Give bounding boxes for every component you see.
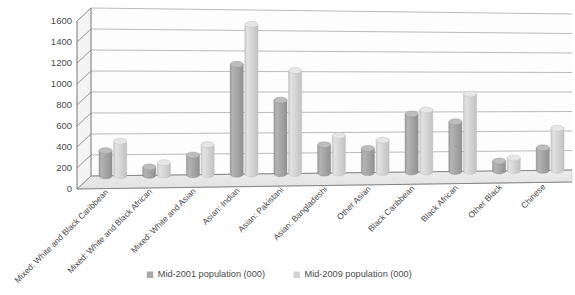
bar-body [245, 24, 258, 177]
chart-container: 02004006008001000120014001600 Mixed: Whi… [0, 0, 575, 295]
bar-cylinder [420, 107, 433, 175]
bar-top-cap [274, 97, 287, 103]
bar-body [361, 148, 374, 175]
bar-body [420, 110, 433, 175]
bar-top-cap [318, 142, 331, 148]
bar-body [114, 141, 127, 178]
bar-top-cap [507, 155, 520, 161]
legend-swatch [294, 272, 301, 279]
bar-cylinder [201, 142, 214, 178]
bar-cylinder [332, 132, 345, 175]
bar-cylinder [114, 138, 127, 178]
bar-cylinder [449, 119, 462, 175]
bar-cylinder [245, 21, 258, 177]
bar-cylinder [376, 137, 389, 175]
bar-cylinder [536, 145, 549, 174]
bar-top-cap [536, 145, 549, 151]
bar-body [186, 155, 199, 178]
bar-body [274, 100, 287, 176]
bar-top-cap [157, 160, 170, 166]
y-axis-tick-label: 200 [56, 162, 72, 173]
bar-body [536, 148, 549, 174]
bar-top-cap [463, 91, 476, 97]
bar-cylinder [507, 155, 520, 174]
bar-body [463, 94, 476, 174]
bar-cylinder [230, 61, 243, 177]
bar-cylinder [463, 91, 476, 174]
x-axis-categories: Mixed: White and Black CaribbeanMixed: W… [12, 181, 547, 285]
bar-body [332, 135, 345, 175]
bar-body [99, 151, 112, 179]
chart-legend: Mid-2001 population (000)Mid-2009 popula… [147, 269, 412, 279]
legend-swatch [147, 272, 154, 279]
y-axis-tick-label: 1200 [51, 57, 72, 68]
legend-label: Mid-2009 population (000) [305, 269, 412, 279]
bar-top-cap [551, 125, 564, 131]
y-axis-tick-label: 1000 [51, 78, 72, 89]
x-axis-category-label: Mixed: White and Black Caribbean [12, 187, 110, 285]
x-axis-category-label: Asian: Pakistani [236, 185, 285, 234]
bar-top-cap [361, 145, 374, 151]
y-axis-tick-label: 400 [56, 141, 72, 152]
bar-body [376, 140, 389, 175]
y-axis-tick-label: 800 [56, 99, 72, 110]
bar-cylinder [405, 111, 418, 175]
bar-cylinder [551, 125, 564, 173]
legend-item: Mid-2009 population (000) [294, 269, 412, 279]
bar-cylinder [143, 164, 156, 178]
bar-top-cap [332, 132, 345, 138]
y-axis-tick-label: 1400 [51, 36, 72, 47]
bar-top-cap [230, 61, 243, 67]
bar-top-cap [245, 21, 258, 27]
x-axis-category-label: Asian: Indian [200, 185, 242, 227]
bar-top-cap [289, 68, 302, 74]
x-axis-category-label: Black Caribbean [366, 183, 417, 234]
y-axis-tick-label: 1600 [51, 15, 72, 26]
bar-body [318, 145, 331, 176]
bar-top-cap [186, 152, 199, 158]
y-axis-tick-label: 600 [56, 120, 72, 131]
bar-chart: 02004006008001000120014001600 Mixed: Whi… [0, 0, 575, 295]
bar-top-cap [449, 119, 462, 125]
bar-body [405, 114, 418, 175]
bar-cylinder [318, 142, 331, 176]
bar-top-cap [405, 111, 418, 117]
legend-label: Mid-2001 population (000) [158, 269, 265, 279]
bar-top-cap [114, 138, 127, 144]
bar-body [230, 64, 243, 177]
bar-cylinder [361, 145, 374, 175]
bar-top-cap [201, 142, 214, 148]
bar-cylinder [99, 148, 112, 179]
bar-cylinder [274, 97, 287, 176]
bar-top-cap [493, 158, 506, 164]
x-axis-category-label: Mixed: White and Black African [65, 186, 154, 275]
bar-body [289, 71, 302, 177]
x-axis-category-label: Other Asian [335, 184, 373, 222]
bar-cylinder [157, 160, 170, 178]
bar-top-cap [376, 137, 389, 143]
bar-top-cap [420, 107, 433, 113]
x-axis-category-label: Other Black [466, 182, 505, 221]
bar-top-cap [99, 148, 112, 154]
bar-cylinder [186, 152, 199, 178]
bar-body [201, 145, 214, 178]
bar-top-cap [143, 164, 156, 170]
x-axis-category-label: Black African [419, 182, 461, 224]
bar-cylinder [493, 158, 506, 174]
bar-cylinder [289, 68, 302, 177]
bar-body [551, 128, 564, 173]
legend-item: Mid-2001 population (000) [147, 269, 265, 279]
y-axis-tick-label: 0 [67, 183, 72, 194]
bar-body [449, 122, 462, 175]
x-axis-category-label: Chinese [519, 181, 548, 210]
